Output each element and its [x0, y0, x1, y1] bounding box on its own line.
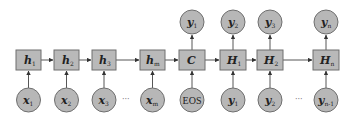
output-y2: y2 [221, 10, 245, 34]
input-edges [29, 71, 327, 88]
encoder-hidden-h2: h2 [54, 50, 79, 70]
encoder-input-x2: x2 [55, 88, 79, 112]
output-edges [192, 35, 326, 50]
output-y3: y3 [258, 10, 282, 34]
svg-text:EOS: EOS [183, 95, 202, 106]
encoder-input-xm: xm [141, 88, 165, 112]
decoder-hidden-H1: H1 [220, 50, 246, 70]
seq2seq-diagram: h1 h2 h3 hm C H1 H2 Hn x1 x2 x3 · [0, 0, 350, 122]
context-vector-c: C [179, 50, 205, 70]
decoder-input-y2: y2 [258, 88, 282, 112]
eos-input: EOS [180, 88, 204, 112]
encoder-input-x3: x3 [92, 88, 116, 112]
decoder-input-yn-1: yn-1 [314, 88, 338, 112]
encoder-hidden-h1: h1 [16, 50, 41, 70]
output-y1: y1 [180, 10, 204, 34]
decoder-hidden-H2: H2 [257, 50, 283, 70]
decoder-ellipsis: ··· [295, 95, 303, 104]
svg-text:C: C [187, 54, 196, 67]
decoder-hidden-Hn: Hn [313, 50, 339, 70]
encoder-input-x1: x1 [17, 88, 41, 112]
encoder-ellipsis: ··· [122, 95, 130, 104]
encoder-hidden-hm: hm [140, 50, 165, 70]
encoder-hidden-h3: h3 [92, 50, 116, 70]
decoder-input-y1: y1 [221, 88, 245, 112]
output-yn: yn [314, 10, 338, 34]
